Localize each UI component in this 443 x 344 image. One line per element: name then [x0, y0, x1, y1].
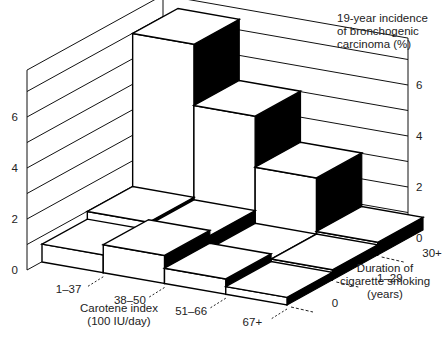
x-tick-label: 51–66	[175, 305, 207, 317]
z-tick-right: 6	[416, 79, 422, 91]
y-axis-title: Duration of cigarette smoking (years)	[330, 262, 440, 301]
z-tick-right: 2	[416, 181, 422, 193]
z-tick-left: 2	[12, 213, 18, 225]
x-tick-mark	[87, 277, 103, 287]
bars	[42, 9, 423, 306]
y-tick-label: 30+	[422, 247, 442, 259]
z-tick-right: 4	[416, 130, 423, 142]
x-tick-label: 67+	[243, 316, 263, 328]
x-tick-mark	[149, 288, 165, 298]
x-axis-title: Carotene index (100 IU/day)	[64, 302, 174, 328]
z-tick-left: 6	[12, 111, 18, 123]
x-tick-mark	[210, 298, 226, 308]
y-tick-mark	[291, 307, 313, 312]
x-tick-mark	[271, 309, 287, 319]
x-tick-label: 1–37	[56, 283, 82, 295]
z-tick-left: 0	[12, 264, 18, 276]
z-axis-title: 19-year incidence of bronchogenic carcin…	[337, 12, 428, 51]
z-tick-left: 4	[12, 162, 19, 174]
